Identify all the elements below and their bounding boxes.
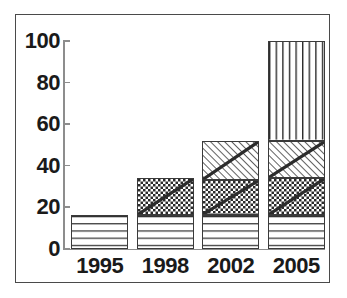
y-axis-line (63, 41, 65, 249)
y-tick-mark (63, 40, 70, 42)
x-axis-line (63, 249, 325, 251)
plot-area: 020406080100 (16, 15, 331, 284)
y-tick-mark (63, 82, 70, 84)
y-tick-label: 100 (16, 30, 60, 52)
x-tick-label-2002: 2002 (198, 255, 264, 277)
bar-segment-2005-segment-1 (268, 215, 325, 248)
bar-segment-1998-segment-2 (137, 178, 194, 215)
bar-segment-2005-segment-3 (268, 141, 325, 178)
bar-1998 (137, 178, 194, 249)
bar-segment-2002-segment-3 (202, 141, 259, 180)
x-tick-label-2005: 2005 (264, 255, 330, 277)
y-axis-labels: 020406080100 (16, 15, 60, 284)
bar-segment-1998-segment-1 (137, 215, 194, 248)
y-tick-mark (63, 206, 70, 208)
bar-segment-1995-segment-1 (71, 215, 128, 248)
y-tick-mark (63, 123, 70, 125)
x-tick-label-1998: 1998 (133, 255, 199, 277)
bar-segment-2005-segment-4 (268, 41, 325, 141)
bar-segment-2005-segment-2 (268, 178, 325, 215)
bar-2005 (268, 41, 325, 249)
bar-segment-2002-segment-1 (202, 215, 259, 248)
x-tick-label-1995: 1995 (67, 255, 133, 277)
y-tick-mark (63, 248, 70, 250)
chart-frame: 020406080100 (15, 14, 330, 283)
y-tick-label: 40 (16, 155, 60, 177)
y-tick-label: 80 (16, 72, 60, 94)
y-tick-label: 20 (16, 196, 60, 218)
bar-1995 (71, 215, 128, 248)
y-tick-label: 60 (16, 113, 60, 135)
y-tick-label: 0 (16, 238, 60, 260)
y-tick-mark (63, 165, 70, 167)
bar-2002 (202, 141, 259, 249)
bar-segment-2002-segment-2 (202, 180, 259, 215)
